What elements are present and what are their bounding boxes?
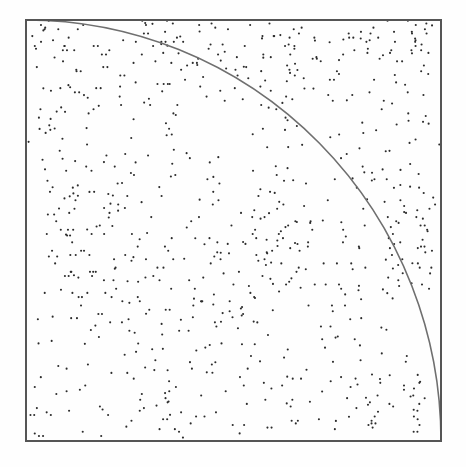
data-point [412,394,414,396]
data-point [327,94,329,96]
data-point [36,407,38,409]
data-point [34,45,36,47]
data-point [60,229,62,231]
data-point [91,275,93,277]
data-point [266,146,268,148]
data-point [422,94,424,96]
data-point [411,52,413,54]
data-point [64,111,66,113]
data-point [33,414,35,416]
data-point [192,304,194,306]
data-point [158,186,160,188]
data-point [54,262,56,264]
data-point [89,271,91,273]
data-point [408,142,410,144]
data-point [232,424,234,426]
data-point [48,124,50,126]
data-point [99,406,101,408]
data-point [289,53,291,55]
data-point [268,22,270,24]
data-point [346,397,348,399]
data-point [372,427,374,429]
data-point [291,399,293,401]
data-point [366,52,368,54]
data-point [44,292,46,294]
data-point [292,378,294,380]
data-point [362,208,364,210]
data-point [389,52,391,54]
data-point [264,399,266,401]
data-point [287,349,289,351]
data-point [141,201,143,203]
data-point [56,256,58,258]
data-point [428,288,430,290]
data-point [289,247,291,249]
data-point [421,283,423,285]
data-point [287,224,289,226]
data-point [94,325,96,327]
data-point [51,340,53,342]
data-point [212,176,214,178]
data-point [39,108,41,110]
data-point [381,108,383,110]
data-point [249,292,251,294]
data-point [198,216,200,218]
data-point [329,79,331,81]
data-point [98,336,100,338]
data-point [42,87,44,89]
data-point [263,216,265,218]
data-point [100,435,102,437]
data-point [228,252,230,254]
data-point [133,174,135,176]
data-point [193,298,195,300]
data-point [414,37,416,39]
data-point [135,81,137,83]
data-point [224,51,226,53]
data-point [149,104,151,106]
data-point [172,258,174,260]
data-point [135,41,137,43]
data-point [38,435,40,437]
data-point [139,238,141,240]
data-point [399,184,401,186]
data-point [237,327,239,329]
data-point [331,304,333,306]
data-point [59,150,61,152]
data-point [327,199,329,201]
data-point [164,41,166,43]
data-point [279,34,281,36]
data-point [153,369,155,371]
data-point [133,118,135,120]
data-point [360,38,362,40]
data-point [369,32,371,34]
data-point [29,414,31,416]
data-point [188,279,190,281]
data-point [64,275,66,277]
data-point [98,105,100,107]
data-point [84,384,86,386]
data-point [312,58,314,60]
data-point [164,31,166,33]
data-point [377,37,379,39]
data-point [368,91,370,93]
data-point [360,317,362,319]
data-point [234,87,236,89]
data-point [82,431,84,433]
data-point [164,246,166,248]
data-point [410,49,412,51]
data-point [424,397,426,399]
data-point [170,288,172,290]
data-point [178,52,180,54]
data-point [71,292,73,294]
data-point [46,180,48,182]
data-point [244,243,246,245]
data-point [312,88,314,90]
data-point [282,203,284,205]
data-point [172,22,174,24]
data-point [49,191,51,193]
data-point [415,45,417,47]
data-point [72,187,74,189]
data-point [114,268,116,270]
data-point [83,250,85,252]
data-point [290,277,292,279]
